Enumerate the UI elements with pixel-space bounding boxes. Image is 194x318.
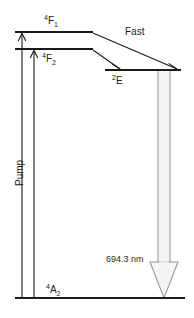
level-label-F1-subscript: 1	[54, 21, 58, 28]
laser-arrow-head	[150, 262, 178, 298]
level-label-F1: 4F1	[44, 14, 58, 28]
fast-arrow-1-shaft	[93, 33, 177, 69]
lasing-transition-arrow	[150, 70, 178, 298]
level-label-F2-subscript: 2	[52, 59, 56, 66]
level-label-F2: 4F2	[42, 52, 56, 66]
level-label-E-main: E	[116, 75, 123, 86]
energy-level-diagram: 4F1 4F2 2E 4A2 Fast Pump 694.3 nm	[0, 0, 194, 318]
pump-label: Pump	[14, 159, 25, 186]
lasing-wavelength-label: 694.3 nm	[106, 254, 144, 264]
laser-arrow-shaft	[158, 70, 170, 262]
level-label-E: 2E	[112, 74, 123, 86]
level-label-A2: 4A2	[46, 283, 61, 297]
fast-relaxation-label: Fast	[125, 26, 145, 37]
fast-relaxation-arrows	[93, 33, 177, 70]
diagram-canvas: 4F1 4F2 2E 4A2 Fast Pump 694.3 nm	[0, 0, 194, 318]
level-label-A2-subscript: 2	[57, 290, 61, 297]
